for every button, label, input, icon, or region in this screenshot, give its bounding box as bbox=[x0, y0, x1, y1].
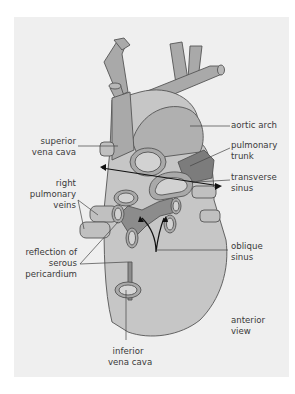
label-oblique-sinus: oblique sinus bbox=[231, 241, 263, 263]
label-right-pulmonary-veins: right pulmonary veins bbox=[20, 178, 76, 211]
label-transverse-sinus: transverse sinus bbox=[231, 172, 277, 194]
label-reflection-serous-pericardium: reflection of serous pericardium bbox=[20, 247, 77, 280]
superior-vena-cava bbox=[112, 92, 134, 160]
label-pulmonary-trunk: pulmonary trunk bbox=[231, 140, 277, 162]
label-anterior-view: anterior view bbox=[231, 315, 265, 337]
label-superior-vena-cava: superior vena cava bbox=[30, 136, 76, 158]
label-inferior-vena-cava: inferior vena cava bbox=[108, 346, 148, 368]
label-aortic-arch: aortic arch bbox=[231, 120, 277, 131]
